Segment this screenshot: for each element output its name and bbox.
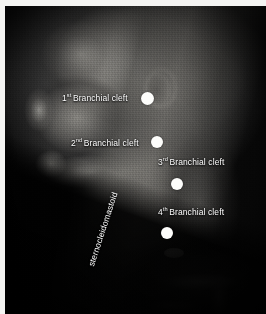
anterior-air-layer [5,6,266,314]
cranium-layer [5,6,266,314]
marker-branchial-cleft-2 [151,136,163,148]
label-text-3: Branchial cleft [170,157,225,167]
ordinal-suffix-4: th [163,206,168,212]
posterior-air-layer [5,6,266,314]
label-sternocleidomastoid: sternocleidomastoid [87,191,119,267]
label-text-4: Branchial cleft [169,207,224,217]
ear-rim-layer [5,6,266,314]
neck-soft-tissue-layer [5,6,266,314]
label-branchial-cleft-2: 2ndBranchial cleft [71,139,139,148]
vignette-layer [5,6,266,314]
ct-scan-image: 1stBranchial cleft 2ndBranchial cleft 3r… [5,6,266,314]
mandible-layer [5,6,266,314]
label-branchial-cleft-3: 3rdBranchial cleft [158,158,224,167]
marker-branchial-cleft-4 [161,227,173,239]
ordinal-suffix-2: nd [76,137,82,143]
nasal-profile-layer [5,6,266,314]
marker-branchial-cleft-1 [141,92,154,105]
vessel-node-layer [164,248,184,258]
midface-layer [5,6,266,314]
trapezius-layer [5,6,266,314]
ordinal-suffix-3: rd [163,156,168,162]
ordinal-suffix-1: st [67,92,72,98]
ct-noise-texture-layer [5,6,266,314]
scan-background-layer [5,6,266,314]
figure-container: 1stBranchial cleft 2ndBranchial cleft 3r… [0,0,266,314]
frontal-bone-layer [5,6,266,314]
occipital-layer [5,6,266,314]
clavicle-bone-layer [5,6,266,314]
label-branchial-cleft-1: 1stBranchial cleft [62,94,128,103]
chin-layer [5,6,266,314]
label-branchial-cleft-4: 4thBranchial cleft [158,208,224,217]
marker-branchial-cleft-3 [171,178,183,190]
label-text-2: Branchial cleft [84,138,139,148]
ear-layer [5,6,266,314]
sternocleidomastoid-muscle-layer [5,6,266,314]
shoulder-layer [5,6,266,314]
label-text-1: Branchial cleft [73,93,128,103]
